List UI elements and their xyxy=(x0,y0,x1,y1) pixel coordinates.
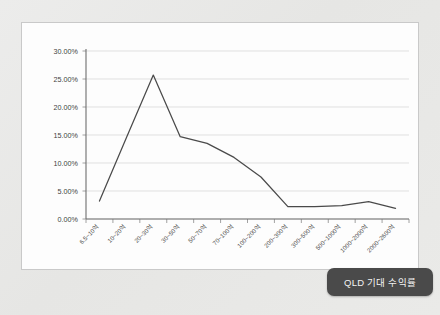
y-axis-tick-label: 10.00% xyxy=(54,159,79,168)
x-axis-tick-labels: 6.5~10억10~20억20~30억30~50억50~70억70~100억10… xyxy=(78,223,397,255)
plot-area: 0.00%5.00%10.00%15.00%20.00%25.00%30.00%… xyxy=(22,23,418,269)
legend-badge[interactable]: QLD 기대 수익률 xyxy=(327,268,433,296)
x-axis-tickmarks xyxy=(83,51,410,223)
gridlines xyxy=(86,51,409,219)
x-axis-tick-label: 2000~2600억 xyxy=(365,223,397,255)
y-axis-tick-label: 5.00% xyxy=(58,187,79,196)
y-axis-tick-label: 0.00% xyxy=(58,215,79,224)
legend-label: QLD 기대 수익률 xyxy=(344,275,416,289)
x-axis-tick-label: 6.5~10억 xyxy=(78,223,101,246)
y-axis-tick-label: 30.00% xyxy=(54,47,79,56)
data-series-line xyxy=(99,75,395,208)
x-axis-tick-label: 300~500억 xyxy=(289,223,316,250)
x-axis-tick-label: 20~30억 xyxy=(133,223,155,245)
chart-panel: 0.00%5.00%10.00%15.00%20.00%25.00%30.00%… xyxy=(21,22,419,270)
y-axis-tick-labels: 0.00%5.00%10.00%15.00%20.00%25.00%30.00% xyxy=(54,47,79,224)
y-axis-tick-label: 20.00% xyxy=(54,103,79,112)
x-axis-tick-label: 30~50억 xyxy=(160,223,182,245)
y-axis-tick-label: 25.00% xyxy=(54,75,79,84)
x-axis-tick-label: 50~70억 xyxy=(187,223,209,245)
page-background: 0.00%5.00%10.00%15.00%20.00%25.00%30.00%… xyxy=(0,0,440,315)
line-chart: 0.00%5.00%10.00%15.00%20.00%25.00%30.00%… xyxy=(22,23,420,271)
x-axis-tick-label: 100~200억 xyxy=(236,223,263,250)
y-axis-tick-label: 15.00% xyxy=(54,131,79,140)
x-axis-tick-label: 70~100억 xyxy=(211,223,235,247)
x-axis-tick-label: 200~300억 xyxy=(262,223,289,250)
x-axis-tick-label: 10~20억 xyxy=(106,223,128,245)
